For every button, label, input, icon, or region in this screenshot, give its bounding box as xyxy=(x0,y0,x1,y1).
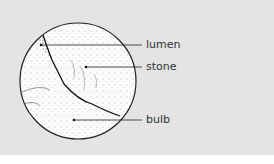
magnified-view-illustration xyxy=(0,0,274,164)
label-stone: stone xyxy=(146,61,177,73)
label-lumen: lumen xyxy=(146,39,180,51)
label-bulb: bulb xyxy=(146,114,170,126)
